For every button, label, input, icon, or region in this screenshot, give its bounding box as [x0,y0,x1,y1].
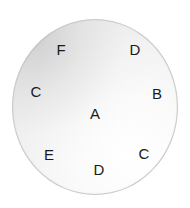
ring-label-c-bottom-right: C [136,146,152,161]
ring-label-c-left: C [28,84,44,99]
ring-label-b: B [149,86,165,101]
diagram-canvas: A F D B C D E C [0,0,190,208]
ring-label-d-bottom: D [91,162,107,177]
ring-label-e: E [41,147,57,162]
ring-label-f: F [53,42,69,57]
center-label-a: A [87,106,103,121]
ring-label-d-top: D [127,42,143,57]
